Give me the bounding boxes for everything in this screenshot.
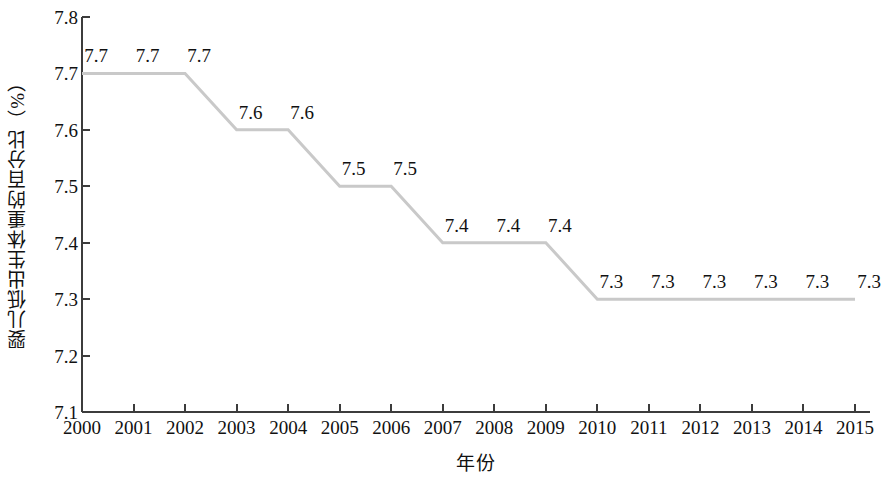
data-point-label: 7.3	[651, 272, 675, 291]
y-axis-tick-label: 7.7	[34, 64, 78, 83]
data-point-label: 7.5	[393, 159, 417, 178]
x-axis-tick-label: 2004	[269, 417, 307, 439]
plot-svg	[82, 17, 870, 412]
x-axis-tick-label: 2006	[372, 417, 410, 439]
data-point-label: 7.3	[806, 272, 830, 291]
plot-area	[82, 17, 870, 412]
series-line	[82, 73, 855, 299]
y-axis-tick-label: 7.4	[34, 234, 78, 253]
data-point-label: 7.4	[548, 216, 572, 235]
data-point-label: 7.7	[84, 46, 108, 65]
data-point-label: 7.4	[496, 216, 520, 235]
data-point-label: 7.7	[136, 46, 160, 65]
data-point-label: 7.3	[857, 272, 881, 291]
x-axis-tick-label: 2002	[166, 417, 204, 439]
y-axis-title: 婴儿低出生体重的百分比（%）	[0, 0, 34, 420]
data-point-label: 7.7	[187, 46, 211, 65]
x-axis-tick-label: 2013	[733, 417, 771, 439]
x-axis-tick-label: 2014	[784, 417, 822, 439]
y-axis-tick-labels: 7.87.77.67.57.47.37.27.1	[30, 0, 78, 478]
x-axis-title: 年份	[82, 448, 870, 475]
x-axis-tick-label: 2005	[321, 417, 359, 439]
data-point-label: 7.6	[239, 103, 263, 122]
y-axis-tick-label: 7.5	[34, 177, 78, 196]
x-axis-tick-label: 2007	[424, 417, 462, 439]
data-point-label: 7.5	[342, 159, 366, 178]
y-axis-title-text: 婴儿低出生体重的百分比（%）	[4, 72, 31, 349]
data-point-label: 7.3	[703, 272, 727, 291]
y-axis-tick-label: 7.2	[34, 347, 78, 366]
x-axis-tick-label: 2000	[63, 417, 101, 439]
data-point-label: 7.6	[290, 103, 314, 122]
x-axis-tick-label: 2015	[836, 417, 874, 439]
y-axis-tick-label: 7.8	[34, 8, 78, 27]
x-axis-tick-label: 2011	[630, 417, 667, 439]
data-point-label: 7.3	[754, 272, 778, 291]
x-axis-tick-label: 2009	[527, 417, 565, 439]
x-axis-tick-label: 2001	[115, 417, 153, 439]
axes-group	[82, 17, 870, 412]
x-axis-tick-labels: 2000200120022003200420052006200720082009…	[82, 417, 870, 443]
y-axis-tick-label: 7.6	[34, 121, 78, 140]
y-axis-tick-label: 7.3	[34, 290, 78, 309]
x-axis-tick-label: 2008	[475, 417, 513, 439]
data-point-label: 7.3	[599, 272, 623, 291]
x-axis-tick-label: 2012	[681, 417, 719, 439]
data-series-line	[82, 73, 855, 299]
x-axis-tick-label: 2003	[218, 417, 256, 439]
data-point-label: 7.4	[445, 216, 469, 235]
x-axis-tick-label: 2010	[578, 417, 616, 439]
